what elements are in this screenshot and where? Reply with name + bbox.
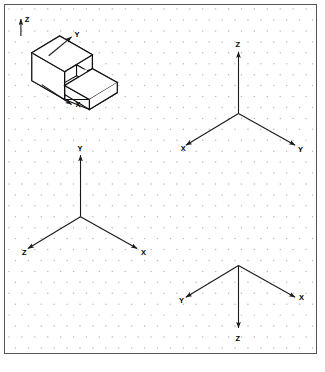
iso-axis-z-label: Z: [25, 15, 30, 24]
triad-tr-axis-y-line: [238, 113, 295, 145]
triad-cl-axis-z-line: [28, 217, 81, 249]
triad-tr-axis-y-label: Y: [298, 145, 303, 154]
triad-tr-axis-x-line: [186, 113, 239, 145]
triad-br-axis-y-line: [186, 265, 239, 297]
triad-cl-axis-z-label: Z: [22, 249, 27, 258]
drawing-sheet: Z Y X Z X Y Y: [0, 0, 325, 372]
triad-cl-axis-y-label: Y: [78, 144, 83, 153]
triad-br-axis-y-label: Y: [179, 296, 184, 305]
triad-br-axis-x-label: X: [299, 293, 304, 302]
drawing-frame: Z Y X Z X Y Y: [4, 4, 317, 354]
isometric-solid-block: Z Y X: [21, 15, 117, 109]
triad-br-axis-x-line: [238, 265, 295, 297]
axis-triad-top-right: Z X Y: [181, 40, 303, 154]
triad-cl-axis-x-label: X: [141, 248, 146, 257]
iso-axis-y-label: Y: [75, 30, 80, 39]
triad-br-axis-z-label: Z: [236, 334, 241, 343]
figures-layer: Z Y X Z X Y Y: [5, 5, 316, 353]
axis-triad-bottom-right: Z Y X: [179, 265, 304, 343]
iso-axis-x-label: X: [76, 100, 81, 109]
triad-tr-axis-x-label: X: [181, 144, 186, 153]
axis-triad-center-left: Y Z X: [22, 144, 146, 257]
triad-tr-axis-z-label: Z: [236, 40, 241, 49]
triad-cl-axis-x-line: [81, 217, 138, 249]
